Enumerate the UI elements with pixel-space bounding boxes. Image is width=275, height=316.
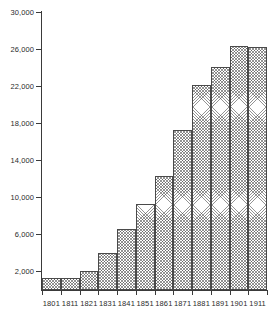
bar-1831 bbox=[98, 253, 117, 290]
bar-1841 bbox=[117, 229, 136, 290]
x-axis-tick-label: 1811 bbox=[62, 299, 79, 308]
x-axis-line bbox=[41, 290, 267, 291]
x-axis-tick bbox=[230, 290, 231, 295]
bar-1821 bbox=[80, 271, 99, 290]
bar-1901 bbox=[230, 46, 249, 290]
x-axis-tick-label: 1821 bbox=[80, 299, 97, 308]
x-axis-tick bbox=[42, 290, 43, 295]
y-axis-tick-label: 30,000 bbox=[0, 8, 34, 17]
y-axis-tick-label: 22,000 bbox=[0, 82, 34, 91]
x-axis-tick bbox=[61, 290, 62, 295]
x-axis-tick bbox=[98, 290, 99, 295]
bar-1851 bbox=[136, 204, 155, 290]
x-axis-tick-label: 1871 bbox=[174, 299, 191, 308]
x-axis-tick-label: 1901 bbox=[230, 299, 247, 308]
x-axis-tick-label: 1881 bbox=[193, 299, 210, 308]
x-axis-tick bbox=[136, 290, 137, 295]
bars-container bbox=[42, 12, 267, 290]
bar-1811 bbox=[61, 278, 80, 291]
x-axis-tick-label: 1831 bbox=[99, 299, 116, 308]
bar-1861 bbox=[155, 176, 174, 290]
y-axis-tick-label: 14,000 bbox=[0, 156, 34, 165]
x-axis-tick bbox=[173, 290, 174, 295]
bar-1911 bbox=[248, 47, 267, 290]
y-axis-tick-label: 2,000 bbox=[0, 267, 34, 276]
x-axis-tick bbox=[211, 290, 212, 295]
x-axis-tick bbox=[267, 290, 268, 295]
x-axis-tick-label: 1851 bbox=[137, 299, 154, 308]
x-axis-tick bbox=[155, 290, 156, 295]
x-axis-tick-label: 1861 bbox=[155, 299, 172, 308]
y-axis-tick-label: 26,000 bbox=[0, 45, 34, 54]
bar-chart: 2,0006,00010,00014,00018,00022,00026,000… bbox=[0, 0, 275, 316]
x-axis-tick-label: 1801 bbox=[43, 299, 60, 308]
x-axis-tick bbox=[248, 290, 249, 295]
x-axis-tick-label: 1911 bbox=[249, 299, 266, 308]
x-axis-tick-label: 1891 bbox=[212, 299, 229, 308]
y-axis-tick-label: 18,000 bbox=[0, 119, 34, 128]
bar-1881 bbox=[192, 85, 211, 290]
y-axis-tick-label: 10,000 bbox=[0, 193, 34, 202]
bar-1891 bbox=[211, 67, 230, 290]
bar-1801 bbox=[42, 278, 61, 290]
y-axis-tick-label: 6,000 bbox=[0, 230, 34, 239]
x-axis-tick bbox=[192, 290, 193, 295]
bar-1871 bbox=[173, 130, 192, 290]
x-axis-tick bbox=[117, 290, 118, 295]
x-axis-tick bbox=[80, 290, 81, 295]
x-axis-tick-label: 1841 bbox=[118, 299, 135, 308]
